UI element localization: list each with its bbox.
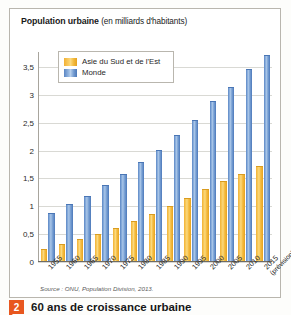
y-axis-tick-label: 0: [30, 258, 34, 267]
bar-group: [93, 53, 111, 261]
y-axis-tick-label: 2,5: [23, 118, 34, 127]
bar-world: [66, 204, 72, 261]
legend-label-world: Monde: [82, 68, 106, 77]
bar-group: [164, 53, 182, 261]
chart-title-main: Population urbaine: [21, 16, 99, 26]
bar-world: [156, 150, 162, 261]
plot-area: 00,511,522,533,5: [38, 53, 272, 262]
bar-world: [84, 196, 90, 261]
bar-world: [246, 69, 252, 261]
bar-groups: [39, 53, 272, 261]
chart-source: Source : ONU, Population Division, 2013.: [40, 285, 154, 292]
x-label-cell: 1965: [74, 263, 92, 303]
x-label-cell: 1970: [92, 263, 110, 303]
legend-item-world: Monde: [64, 67, 168, 78]
bar-world: [138, 162, 144, 261]
legend-item-asia: Asie du Sud et de l'Est: [64, 56, 168, 67]
legend-swatch-asia-icon: [64, 58, 77, 66]
bar-asia: [220, 181, 226, 261]
bar-group: [75, 53, 93, 261]
y-axis-tick-label: 3,5: [23, 62, 34, 71]
bar-group: [254, 53, 272, 261]
bar-world: [264, 55, 270, 261]
legend-swatch-world-icon: [64, 69, 77, 77]
y-axis-tick-label: 0,5: [23, 230, 34, 239]
chart-title: Population urbaine (en milliards d'habit…: [21, 16, 187, 26]
y-axis-tick-label: 1: [30, 202, 34, 211]
x-label-cell: 1975: [110, 263, 128, 303]
bar-group: [182, 53, 200, 261]
bar-group: [218, 53, 236, 261]
x-label-cell: 1960: [56, 263, 74, 303]
bar-world: [48, 213, 54, 261]
y-axis-tick-label: 3: [30, 90, 34, 99]
y-axis-tick-label: 1,5: [23, 174, 34, 183]
bar-group: [39, 53, 57, 261]
chart-frame: Population urbaine (en milliards d'habit…: [9, 8, 281, 298]
x-label-cell: 1955: [38, 263, 56, 303]
bar-group: [57, 53, 75, 261]
bar-asia: [41, 249, 47, 261]
bar-group: [129, 53, 147, 261]
bar-asia: [256, 166, 262, 261]
bar-world: [102, 185, 108, 261]
legend-label-asia: Asie du Sud et de l'Est: [82, 57, 160, 66]
x-label-cell: 1980: [128, 263, 146, 303]
bar-asia: [238, 174, 244, 261]
bar-world: [210, 101, 216, 261]
y-axis-tick-label: 2: [30, 146, 34, 155]
caption-title: 60 ans de croissance urbaine: [31, 301, 191, 313]
x-axis-labels: 1955196019651970197519801985199019952000…: [38, 263, 272, 303]
bar-asia: [202, 189, 208, 261]
bar-asia: [149, 214, 155, 261]
bar-asia: [167, 206, 173, 261]
bar-world: [228, 87, 234, 261]
chart-title-subtitle: (en milliards d'habitants): [101, 17, 187, 26]
bar-group: [200, 53, 218, 261]
bar-world: [174, 135, 180, 261]
x-label-cell: 2005: [218, 263, 236, 303]
caption-number-badge: 2: [9, 300, 24, 314]
x-label-cell: 1995: [182, 263, 200, 303]
x-label-cell: 1990: [164, 263, 182, 303]
figure-container: Population urbaine (en milliards d'habit…: [0, 0, 291, 315]
bar-world: [120, 174, 126, 261]
bar-group: [147, 53, 165, 261]
bar-group: [111, 53, 129, 261]
x-label-cell: 2010: [236, 263, 254, 303]
bar-group: [236, 53, 254, 261]
figure-caption: 2 60 ans de croissance urbaine: [9, 300, 191, 314]
chart-legend: Asie du Sud et de l'Est Monde: [58, 51, 174, 83]
x-label-cell: 2000: [200, 263, 218, 303]
x-label-cell: 1985: [146, 263, 164, 303]
bar-world: [192, 120, 198, 261]
x-label-cell: 2015(prévision): [254, 263, 272, 303]
bar-asia: [184, 198, 190, 261]
